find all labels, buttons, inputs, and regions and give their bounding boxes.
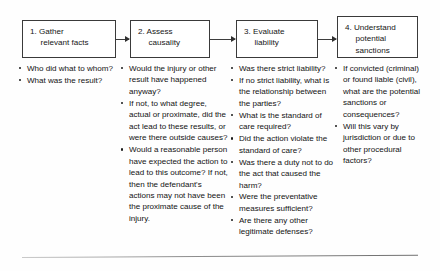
list-item: Who did what to whom? <box>18 63 119 74</box>
step-4-heading-line-2: potential <box>345 33 417 44</box>
list-item: What was the result? <box>18 75 119 86</box>
list-item: Would the injury or other result have ha… <box>120 63 228 97</box>
list-item: Will this vary by jurisdiction or due to… <box>334 121 426 167</box>
bullet-dot-icon <box>231 196 233 198</box>
bullet-dot-icon <box>335 125 337 127</box>
list-item-text: Did the action violate the standard of c… <box>239 133 336 156</box>
step-4-heading-line-3: sanctions <box>345 45 417 56</box>
step-3-heading-line-2: liability <box>244 37 317 48</box>
list-item-text: Were the preventative measures sufficien… <box>239 191 336 214</box>
list-item: If no strict liability, what is the rela… <box>230 75 336 109</box>
step-1-heading-line-1: 1. Gather <box>30 26 115 37</box>
bullet-list-step-4: If convicted (criminal) or found liable … <box>334 63 426 167</box>
step-4-heading-line-1: 4. Understand <box>345 22 417 33</box>
flow-box-step-2: 2. Assess causality <box>130 20 210 58</box>
list-item: Was there strict liability? <box>230 63 336 74</box>
list-item-text: If convicted (criminal) or found liable … <box>343 63 426 120</box>
list-item: If convicted (criminal) or found liable … <box>334 63 426 120</box>
bullet-dot-icon <box>231 114 233 116</box>
page-divider-rule <box>22 255 418 258</box>
flow-box-step-1: 1. Gather relevant facts <box>22 20 116 58</box>
step-1-heading-line-2: relevant facts <box>30 37 115 48</box>
bullet-dot-icon <box>231 137 233 139</box>
bullet-dot-icon <box>231 79 233 81</box>
arrow-step-2-to-step-3 <box>210 39 235 40</box>
diagram-canvas: 1. Gather relevant facts 2. Assess causa… <box>0 0 440 271</box>
flow-box-step-4: 4. Understand potential sanctions <box>337 16 418 58</box>
bullet-dot-icon <box>121 148 123 150</box>
list-item-text: If not, to what degree, actual or proxim… <box>129 98 228 144</box>
bullet-dot-icon <box>121 102 123 104</box>
list-item: Did the action violate the standard of c… <box>230 133 336 156</box>
list-item-text: Was there a duty not to do the act that … <box>239 157 336 191</box>
list-item-text: Will this vary by jurisdiction or due to… <box>343 121 426 167</box>
step-3-heading-line-1: 3. Evaluate <box>244 26 317 37</box>
bullet-dot-icon <box>231 161 233 163</box>
bullet-list-step-1: Who did what to whom? What was the resul… <box>18 63 119 87</box>
bullet-dot-icon <box>19 67 21 69</box>
bullet-dot-icon <box>335 67 337 69</box>
list-item: Was there a duty not to do the act that … <box>230 157 336 191</box>
step-2-heading-line-2: causality <box>138 37 209 48</box>
list-item: Are there any other legitimate defenses? <box>230 215 336 238</box>
arrow-step-1-to-step-2 <box>116 39 129 40</box>
list-item-text: Was there strict liability? <box>239 63 336 74</box>
list-item-text: Would the injury or other result have ha… <box>129 63 228 97</box>
flow-box-step-3: 3. Evaluate liability <box>236 20 318 58</box>
list-item: What is the standard of care required? <box>230 110 336 133</box>
bullet-list-step-2: Would the injury or other result have ha… <box>120 63 228 225</box>
bullet-list-step-3: Was there strict liability? If no strict… <box>230 63 336 238</box>
bullet-dot-icon <box>231 67 233 69</box>
arrow-step-3-to-step-4 <box>318 39 336 40</box>
bullet-dot-icon <box>19 79 21 81</box>
list-item-text: Who did what to whom? <box>27 63 119 74</box>
list-item-text: What was the result? <box>27 75 119 86</box>
list-item-text: What is the standard of care required? <box>239 110 336 133</box>
list-item: Would a reasonable person have expected … <box>120 144 228 224</box>
list-item-text: If no strict liability, what is the rela… <box>239 75 336 109</box>
bullet-dot-icon <box>231 219 233 221</box>
list-item-text: Would a reasonable person have expected … <box>129 144 228 224</box>
bullet-dot-icon <box>121 67 123 69</box>
list-item: If not, to what degree, actual or proxim… <box>120 98 228 144</box>
step-2-heading-line-1: 2. Assess <box>138 26 209 37</box>
list-item-text: Are there any other legitimate defenses? <box>239 215 336 238</box>
list-item: Were the preventative measures sufficien… <box>230 191 336 214</box>
